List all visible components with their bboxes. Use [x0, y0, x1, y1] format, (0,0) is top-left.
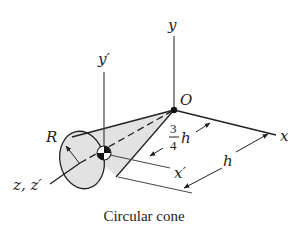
- fraction-denominator: 4: [170, 138, 177, 153]
- centroid-distance-var-label: h: [181, 129, 191, 147]
- centroid-icon: [97, 146, 111, 160]
- h-arrow-lower: [184, 168, 222, 188]
- y-axis-label: y: [167, 16, 177, 34]
- x-axis-label: x: [280, 127, 288, 145]
- z-axis-label: z, z′: [12, 176, 42, 194]
- y-prime-axis-label: y′: [97, 50, 110, 68]
- h-arrow-upper: [236, 134, 268, 152]
- x-prime-axis-label: x′: [174, 164, 186, 182]
- fraction-numerator: 3: [170, 121, 177, 136]
- origin-label: O: [180, 91, 192, 109]
- three-quarter-h-arrow-lower: [150, 148, 163, 156]
- three-quarter-h-arrow-upper: [196, 123, 210, 132]
- origin-point: [171, 107, 177, 113]
- figure-caption: Circular cone: [103, 208, 185, 224]
- circular-cone-diagram: y y′ O x R z, z′ x′ 3 4 h h Circular con…: [0, 0, 288, 225]
- radius-label: R: [45, 128, 57, 146]
- height-label: h: [223, 152, 233, 170]
